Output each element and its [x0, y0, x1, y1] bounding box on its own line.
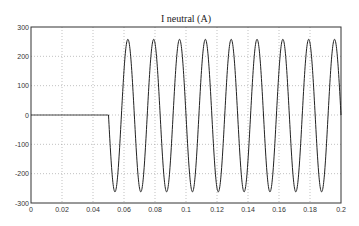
x-tick-label: 0.18 — [303, 206, 317, 213]
y-tick-label: -200 — [15, 170, 29, 177]
y-tick-label: 300 — [17, 24, 29, 31]
y-tick-label: -100 — [15, 141, 29, 148]
x-tick-label: 0.08 — [148, 206, 162, 213]
y-tick-label: -300 — [15, 200, 29, 207]
axis-ticks: 00.020.040.060.080.10.120.140.160.180.2-… — [15, 24, 346, 214]
x-tick-label: 0.1 — [181, 206, 191, 213]
x-tick-label: 0.04 — [86, 206, 100, 213]
x-tick-label: 0.12 — [210, 206, 224, 213]
x-tick-label: 0.2 — [336, 206, 346, 213]
y-tick-label: 100 — [17, 82, 29, 89]
chart-title: I neutral (A) — [161, 13, 211, 25]
x-tick-label: 0.16 — [272, 206, 286, 213]
x-tick-label: 0.06 — [117, 206, 131, 213]
y-tick-label: 200 — [17, 53, 29, 60]
x-tick-label: 0.02 — [55, 206, 69, 213]
y-tick-label: 0 — [25, 112, 29, 119]
line-chart: I neutral (A) 00.020.040.060.080.10.120.… — [0, 0, 359, 226]
x-tick-label: 0.14 — [241, 206, 255, 213]
x-tick-label: 0 — [29, 206, 33, 213]
